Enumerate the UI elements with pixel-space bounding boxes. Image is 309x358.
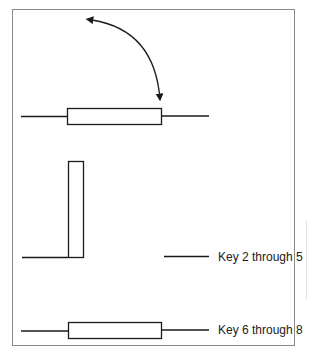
bottom-horizontal-key [21,323,209,339]
top-horizontal-key [21,109,209,125]
vertical-key [22,162,84,258]
key-diagram [0,0,309,358]
label-key-6-8: Key 6 through 8 [218,323,303,337]
rotation-arrow-icon [92,20,160,100]
label-key-2-5: Key 2 through 5 [218,250,303,264]
